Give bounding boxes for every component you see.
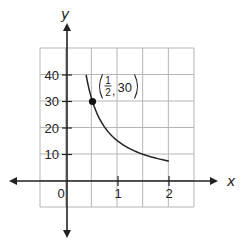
fraction-numerator: 1: [105, 75, 111, 86]
point-y-value: 30: [118, 80, 132, 95]
y-axis-label: y: [60, 6, 70, 22]
comma: ,: [112, 84, 115, 98]
graph: xy 12102030400 12,30: [0, 0, 242, 246]
highlighted-point: [89, 98, 96, 105]
y-axis-arrow-down-icon: [63, 230, 71, 238]
close-paren: [135, 75, 138, 99]
y-tick-label: 20: [45, 121, 59, 136]
open-paren: [100, 75, 103, 99]
y-tick-label: 10: [45, 147, 59, 162]
fraction-denominator: 2: [105, 87, 111, 98]
x-axis-label: x: [226, 173, 236, 189]
y-tick-label: 40: [45, 68, 59, 83]
axes: xy: [9, 6, 236, 238]
x-axis-arrow-right-icon: [210, 177, 218, 185]
y-axis-arrow-up-icon: [63, 23, 71, 31]
x-tick-label: 1: [114, 186, 121, 201]
x-tick-label: 2: [165, 186, 172, 201]
x-axis-arrow-left-icon: [9, 177, 17, 185]
origin-label: 0: [57, 186, 64, 201]
y-tick-label: 30: [45, 94, 59, 109]
